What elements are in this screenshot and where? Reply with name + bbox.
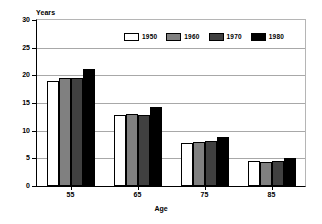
bar-groups — [37, 20, 305, 186]
bar-1980-age-85 — [284, 158, 296, 186]
x-axis-title: Age — [0, 205, 322, 212]
y-tick-mark — [32, 20, 36, 21]
x-tick-mark — [272, 186, 273, 190]
y-tick-label: 5 — [0, 154, 30, 161]
bar-group — [171, 20, 238, 186]
y-tick-mark — [32, 158, 36, 159]
y-tick-label: 10 — [0, 127, 30, 134]
y-tick-label: 25 — [0, 44, 30, 51]
x-tick-mark — [205, 186, 206, 190]
legend: 1950196019701980 — [124, 30, 284, 43]
y-tick-mark — [32, 75, 36, 76]
y-tick-mark — [32, 131, 36, 132]
x-tick-label: 75 — [185, 191, 225, 198]
x-tick-label: 85 — [252, 191, 292, 198]
legend-swatch-1960-icon — [166, 33, 181, 41]
bar-1950-age-75 — [181, 143, 193, 186]
bar-1980-age-75 — [217, 137, 229, 186]
x-tick-mark — [71, 186, 72, 190]
bar-1980-age-55 — [83, 69, 95, 186]
x-tick-label: 65 — [118, 191, 158, 198]
bar-1950-age-55 — [47, 81, 59, 186]
x-tick-mark — [138, 186, 139, 190]
legend-swatch-1970-icon — [209, 33, 224, 41]
legend-swatch-1980-icon — [251, 33, 266, 41]
legend-swatch-1950-icon — [124, 33, 139, 41]
bar-1970-age-55 — [71, 78, 83, 186]
y-tick-label: 15 — [0, 99, 30, 106]
legend-label: 1950 — [142, 33, 157, 40]
bar-1970-age-65 — [138, 115, 150, 186]
bar-1960-age-85 — [260, 162, 272, 186]
legend-label: 1980 — [269, 33, 284, 40]
x-tick-label: 55 — [51, 191, 91, 198]
legend-item-1960[interactable]: 1960 — [166, 33, 199, 41]
bar-1970-age-85 — [272, 161, 284, 186]
legend-item-1980[interactable]: 1980 — [251, 33, 284, 41]
bar-1960-age-65 — [126, 114, 138, 186]
bar-1950-age-85 — [248, 161, 260, 186]
bar-group — [37, 20, 104, 186]
legend-label: 1960 — [184, 33, 199, 40]
legend-item-1970[interactable]: 1970 — [209, 33, 242, 41]
bar-1970-age-75 — [205, 141, 217, 186]
y-tick-label: 0 — [0, 182, 30, 189]
y-tick-mark — [32, 186, 36, 187]
bar-1950-age-65 — [114, 115, 126, 186]
y-axis-title: Years — [36, 9, 55, 16]
legend-item-1950[interactable]: 1950 — [124, 33, 157, 41]
legend-label: 1970 — [227, 33, 242, 40]
y-tick-mark — [32, 103, 36, 104]
bar-1960-age-75 — [193, 142, 205, 186]
y-tick-label: 20 — [0, 71, 30, 78]
bar-1980-age-65 — [150, 107, 162, 186]
bar-1960-age-55 — [59, 78, 71, 186]
bar-group — [104, 20, 171, 186]
y-tick-mark — [32, 48, 36, 49]
bar-chart: Years 051015202530 55657585 Age 19501960… — [0, 0, 322, 224]
y-tick-label: 30 — [0, 16, 30, 23]
bar-group — [238, 20, 305, 186]
